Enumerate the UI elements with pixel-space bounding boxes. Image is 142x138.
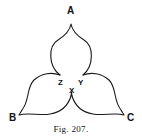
trefoil-diagram: A B C Z Y X Fig. 207. [0, 0, 142, 138]
label-z: Z [58, 78, 63, 87]
label-x: X [69, 86, 75, 95]
label-b: B [9, 112, 16, 123]
figure-caption: Fig. 207. [54, 124, 89, 134]
top-lobe [51, 24, 92, 75]
left-lobe [19, 73, 71, 115]
label-c: C [127, 112, 134, 123]
label-a: A [67, 5, 74, 16]
label-y: Y [78, 78, 84, 87]
